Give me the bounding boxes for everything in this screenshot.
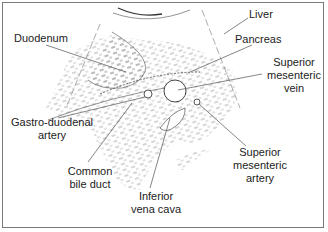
label-inferior-vena-cava: Inferior vena cava	[126, 190, 186, 216]
liver-outline	[113, 8, 190, 19]
lower-tissue	[176, 150, 212, 171]
label-superior-mesenteric-artery: Superior mesenteric artery	[228, 146, 292, 185]
label-superior-mesenteric-vein: Superior mesenteric vein	[262, 56, 326, 95]
gastro-duodenal-artery-shape	[144, 90, 152, 98]
superior-mesenteric-vein-shape	[164, 80, 186, 102]
label-liver: Liver	[249, 8, 273, 21]
label-common-bile-duct: Common bile duct	[62, 165, 118, 191]
label-duodenum: Duodenum	[14, 32, 68, 45]
label-pancreas: Pancreas	[235, 33, 281, 46]
label-gastro-duodenal-artery: Gastro-duodenal artery	[4, 116, 100, 142]
